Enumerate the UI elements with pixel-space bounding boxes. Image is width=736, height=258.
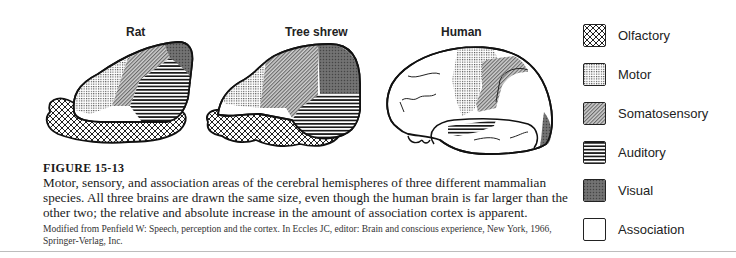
legend-item-association: Association [583,216,684,242]
legend-label: Olfactory [618,28,670,43]
legend-label: Somatosensory [618,106,708,121]
association-swatch-icon [583,218,606,241]
panel-title-rat: Rat [126,25,145,39]
tree-shrew-brain-illustration [200,38,380,158]
panel-title-tree-shrew: Tree shrew [285,25,348,39]
legend-item-olfactory: Olfactory [583,22,670,48]
panel-title-human: Human [441,25,482,39]
visual-swatch-icon [583,179,606,202]
figure-caption: FIGURE 15-13 Motor, sensory, and associa… [43,161,583,247]
legend-item-visual: Visual [583,177,653,203]
rat-brain-illustration [38,38,218,158]
legend-label: Auditory [618,145,666,160]
legend-label: Visual [618,183,653,198]
caption-text: Motor, sensory, and association areas of… [43,175,583,220]
page-divider [0,251,736,252]
legend-item-motor: Motor [583,61,651,87]
legend-item-auditory: Auditory [583,139,666,165]
auditory-swatch-icon [583,141,606,164]
motor-swatch-icon [583,63,606,86]
human-brain-illustration [378,40,568,165]
figure-number: FIGURE 15-13 [43,161,583,175]
legend-label: Motor [618,67,651,82]
somatosensory-swatch-icon [583,102,606,125]
olfactory-swatch-icon [583,24,606,47]
legend-label: Association [618,222,684,237]
legend-item-somatosensory: Somatosensory [583,100,708,126]
caption-credit: Modified from Penfield W: Speech, percep… [43,224,583,247]
